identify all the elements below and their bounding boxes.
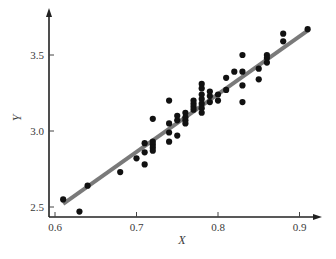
data-point: [199, 110, 205, 116]
data-point: [223, 75, 229, 81]
data-point: [182, 114, 188, 120]
data-point: [215, 98, 221, 104]
data-point: [150, 139, 156, 145]
data-point: [256, 66, 262, 72]
x-tick-label: 0.9: [293, 221, 307, 233]
data-point: [239, 82, 245, 88]
data-point: [166, 120, 172, 126]
y-axis-label: Y: [10, 113, 24, 121]
data-point: [199, 85, 205, 91]
data-point: [174, 132, 180, 138]
data-point: [142, 149, 148, 155]
x-tick-label: 0.6: [48, 221, 62, 233]
data-point: [76, 208, 82, 214]
data-point: [239, 99, 245, 105]
scatter-chart: 0.60.70.80.92.53.03.5 X Y: [0, 0, 336, 259]
data-point: [239, 69, 245, 75]
data-point: [182, 120, 188, 126]
x-axis-arrow-icon: [313, 214, 322, 220]
data-point: [133, 155, 139, 161]
data-point: [166, 98, 172, 104]
data-point: [231, 69, 237, 75]
data-point: [280, 38, 286, 44]
data-point: [166, 139, 172, 145]
x-axis-label: X: [177, 233, 186, 247]
data-point: [166, 129, 172, 135]
data-point: [142, 161, 148, 167]
data-point: [207, 99, 213, 105]
data-point: [174, 113, 180, 119]
data-point: [150, 116, 156, 122]
data-point: [60, 196, 66, 202]
data-point: [150, 148, 156, 154]
data-point: [215, 91, 221, 97]
data-point: [142, 140, 148, 146]
data-point: [264, 60, 270, 66]
x-tick-label: 0.7: [130, 221, 144, 233]
data-point: [280, 31, 286, 37]
data-point: [85, 183, 91, 189]
x-tick-label: 0.8: [211, 221, 225, 233]
y-axis-arrow-icon: [46, 8, 52, 17]
y-tick-label: 2.5: [30, 201, 44, 213]
y-tick-label: 3.5: [30, 49, 44, 61]
data-point: [256, 76, 262, 82]
data-point: [239, 52, 245, 58]
data-point: [190, 107, 196, 113]
data-point: [305, 26, 311, 32]
data-point: [207, 93, 213, 99]
data-point: [117, 169, 123, 175]
data-point: [223, 87, 229, 93]
y-tick-label: 3.0: [30, 125, 44, 137]
